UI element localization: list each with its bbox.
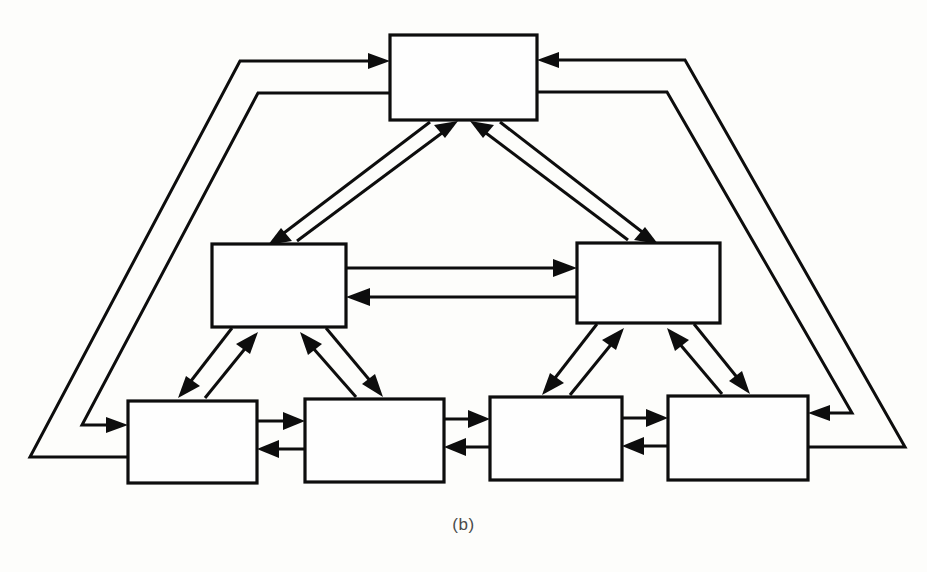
edge-group-leaf1-leaf2 [257,412,305,458]
edge-group-midr-leaf3 [542,324,624,395]
edge-midl-to-midr[interactable] [346,259,577,277]
arrowhead-icon [444,438,466,456]
edge-midl-to-leaf2[interactable] [326,328,383,397]
edge-midl-to-top[interactable] [297,121,458,241]
edge-midr-to-leaf4[interactable] [694,324,750,394]
node-top[interactable] [390,35,537,120]
edge-group-top-midr [470,121,658,244]
edge-group-leaf3-leaf4 [622,409,668,455]
edge-leaf2-to-leaf3[interactable] [444,410,490,428]
arrowhead-icon [106,417,128,433]
figure-caption-label: (b) [452,515,474,535]
diagram-canvas [0,0,927,572]
arrowhead-icon [553,259,577,277]
edge-leaf3-to-leaf4[interactable] [622,409,668,427]
edge-leaf2-to-midl[interactable] [300,332,356,397]
node-leaf-2[interactable] [305,399,444,482]
edge-group-midl-midr [346,259,577,306]
edge-leaf3-to-leaf2[interactable] [444,438,490,456]
edge-leaf4-to-midr[interactable] [667,328,722,394]
node-leaf-4[interactable] [668,396,808,480]
node-leaf-1[interactable] [128,401,257,483]
node-leaf-3[interactable] [490,397,622,480]
arrowhead-icon [602,328,624,350]
arrowhead-icon [368,53,390,69]
arrowhead-icon [362,374,383,397]
node-mid-r[interactable] [577,243,720,323]
edge-group-midl-leaf1 [178,328,258,398]
arrowhead-icon [300,332,322,355]
edge-top-to-midl[interactable] [268,122,430,245]
edge-leaf3-to-midr[interactable] [570,328,624,395]
arrowhead-icon [808,405,830,421]
edge-group-midr-leaf4 [667,324,750,394]
arrowhead-icon [236,332,258,354]
edge-leaf2-to-leaf1[interactable] [257,440,305,458]
edge-leaf4-to-leaf3[interactable] [622,437,668,455]
edge-leaf1-to-midl[interactable] [205,332,258,398]
edge-group-midl-leaf2 [300,328,383,397]
node-mid-l[interactable] [212,244,346,327]
edge-top-to-midr[interactable] [500,122,658,244]
edge-midr-to-midl[interactable] [346,288,577,306]
figure-root: (b) [0,0,927,572]
edge-midr-to-leaf3[interactable] [542,324,597,395]
arrowhead-icon [667,328,689,351]
arrowhead-icon [542,373,564,395]
edge-leaf1-to-leaf2[interactable] [257,412,305,430]
arrowhead-icon [283,412,305,430]
edge-group-leaf2-leaf3 [444,410,490,456]
arrowhead-icon [468,410,490,428]
edge-midl-to-leaf1[interactable] [178,328,232,398]
arrowhead-icon [346,288,370,306]
arrowhead-icon [729,371,750,394]
arrowhead-icon [622,437,644,455]
edge-group-top-midl [268,121,458,245]
arrowhead-icon [178,376,200,398]
arrowhead-icon [537,52,559,68]
arrowhead-icon [257,440,279,458]
figure-caption: (b) [0,515,927,535]
edge-midr-to-top[interactable] [470,121,628,240]
arrowhead-icon [646,409,668,427]
